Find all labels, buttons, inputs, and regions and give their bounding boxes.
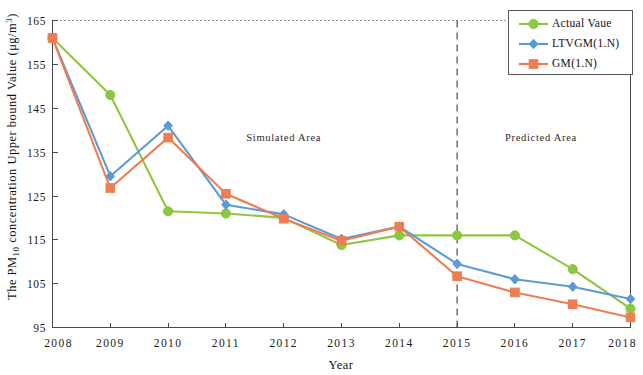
x-tick-label-2009: 2009 [96,337,125,349]
y-tick-label-105: 105 [27,278,46,290]
y-axis-title: The PM10 concentration Upper bound Value… [4,13,21,300]
data-point-gm-1-n-2009 [106,184,115,193]
data-point-actual-vaue-2015 [453,231,462,240]
data-point-gm-1-n-2013 [337,236,346,245]
y-tick-label-155: 155 [27,59,46,71]
x-axis-title: Year [328,358,353,372]
data-point-gm-1-n-2014 [395,222,404,231]
data-point-gm-1-n-2012 [279,214,288,223]
x-tick-label-2015: 2015 [443,337,472,349]
x-tick-label-2017: 2017 [558,337,587,349]
x-tick-label-2010: 2010 [154,337,183,349]
chart-legend: Actual VaueLTVGM(1.N)GM(1.N) [509,11,633,75]
y-tick-label-125: 125 [27,191,46,203]
data-point-gm-1-n-2015 [453,272,462,281]
pm10-upper-bound-line-chart: 165 155 145 135 125 115 105 95 200820092… [0,0,643,375]
data-point-gm-1-n-2011 [222,189,231,198]
data-point-actual-vaue-2010 [164,207,173,216]
x-tick-label-2008: 2008 [44,337,73,349]
data-point-gm-1-n-2016 [511,288,520,297]
legend-item-actual-vaue[interactable]: Actual Vaue [519,17,612,29]
data-point-actual-vaue-2017 [568,265,577,274]
data-point-actual-vaue-2018 [626,304,635,313]
data-point-gm-1-n-2018 [626,313,635,322]
legend-item-ltvgm-1-n[interactable]: LTVGM(1.N) [519,37,619,50]
legend-marker-actual-vaue [529,19,538,28]
chart-container: 165 155 145 135 125 115 105 95 200820092… [0,0,643,375]
y-tick-label-145: 145 [27,103,46,115]
x-tick-label-2016: 2016 [501,337,530,349]
annotation-predicted-area: Predicted Area [505,132,577,143]
legend-label-gm-1-n: GM(1.N) [552,57,597,70]
x-tick-label-2012: 2012 [269,337,298,349]
data-point-gm-1-n-2010 [164,133,173,142]
legend-label-actual-vaue: Actual Vaue [552,17,612,29]
y-tick-label-95: 95 [33,322,46,334]
data-point-actual-vaue-2014 [395,231,404,240]
x-tick-label-2011: 2011 [212,337,240,349]
data-point-gm-1-n-2017 [568,300,577,309]
x-tick-label-2014: 2014 [385,337,414,349]
data-point-gm-1-n-2008 [48,34,57,43]
data-point-actual-vaue-2011 [221,209,230,218]
y-tick-label-135: 135 [27,147,46,159]
legend-marker-gm-1-n [529,60,538,69]
data-point-actual-vaue-2016 [510,231,519,240]
legend-label-ltvgm-1-n: LTVGM(1.N) [552,37,619,50]
y-tick-label-165: 165 [27,15,46,27]
y-tick-label-115: 115 [27,234,46,246]
x-tick-label-2018: 2018 [608,337,637,349]
annotation-simulated-area: Simulated Area [246,132,321,143]
x-tick-label-2013: 2013 [327,337,356,349]
data-point-actual-vaue-2009 [106,90,115,99]
